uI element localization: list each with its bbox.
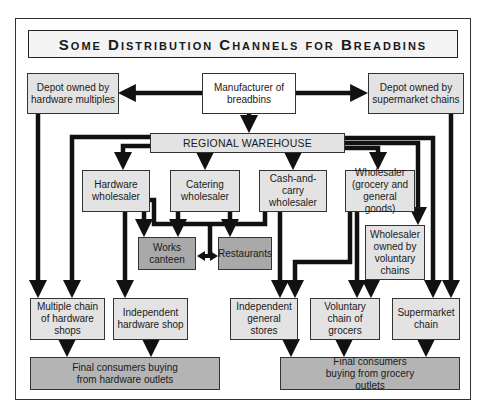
node-restaurants: Restaurants	[218, 237, 272, 270]
node-final-hardware: Final consumers buying from hardware out…	[30, 357, 220, 390]
node-works-canteen: Works canteen	[138, 237, 196, 270]
node-wholesaler-grocery: Wholesaler (grocery and general goods)	[345, 170, 415, 212]
node-independent-general: Independent general stores	[230, 298, 298, 340]
node-catering-wholesaler: Catering wholesaler	[170, 170, 240, 212]
node-depot-hardware: Depot owned by hardware multiples	[27, 73, 119, 114]
node-voluntary-chain: Voluntary chain of grocers	[310, 298, 380, 340]
node-wholesaler-voluntary: Wholesaler owned by voluntary chains	[365, 225, 425, 280]
node-cash-and-carry: Cash-and-carry wholesaler	[259, 170, 327, 212]
node-supermarket-chain: Supermarket chain	[392, 298, 460, 340]
node-multiple-chain-hardware: Multiple chain of hardware shops	[30, 298, 105, 340]
node-hardware-wholesaler: Hardware wholesaler	[82, 170, 150, 212]
node-manufacturer: Manufacturer of breadbins	[202, 73, 296, 114]
node-regional-warehouse: REGIONAL WAREHOUSE	[150, 133, 345, 153]
node-independent-hardware: Independent hardware shop	[113, 298, 188, 340]
flow-arrows	[0, 0, 492, 414]
node-final-grocery: Final consumers buying from grocery outl…	[280, 357, 460, 390]
node-depot-supermarket: Depot owned by supermarket chains	[368, 73, 464, 114]
